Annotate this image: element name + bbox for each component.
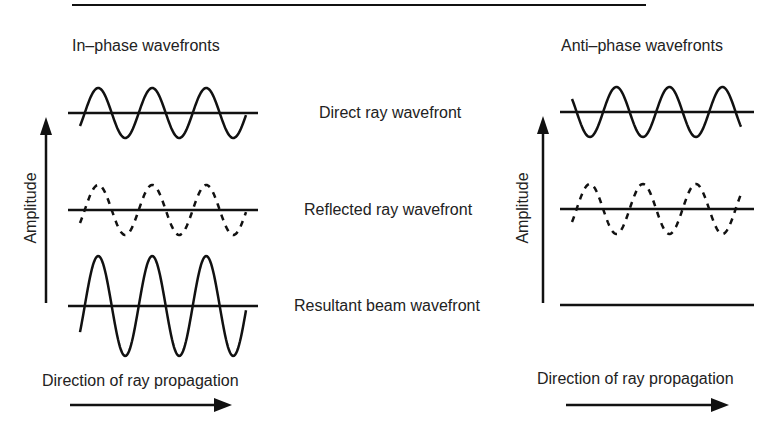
left-axis-label: Amplitude <box>22 168 40 248</box>
right-direction-arrow <box>566 398 729 412</box>
row-label-reflected: Reflected ray wavefront <box>304 201 472 219</box>
arrow-right-icon <box>214 398 232 412</box>
left-direction-label: Direction of ray propagation <box>42 372 239 390</box>
row-label-direct: Direct ray wavefront <box>319 104 461 122</box>
right-direction-label: Direction of ray propagation <box>537 370 734 388</box>
right-amplitude-axis <box>537 116 549 303</box>
left-amplitude-axis <box>40 117 52 303</box>
left-panel-title: In–phase wavefronts <box>72 37 220 55</box>
right-reflected-wave <box>560 184 754 234</box>
left-direction-arrow <box>70 398 232 412</box>
row-label-resultant: Resultant beam wavefront <box>294 297 480 315</box>
right-axis-label: Amplitude <box>514 168 532 248</box>
arrow-up-icon <box>537 116 549 134</box>
left-reflected-wave <box>68 185 258 235</box>
left-direct-wave <box>68 88 258 138</box>
arrow-up-icon <box>40 117 52 135</box>
right-panel-title: Anti–phase wavefronts <box>561 37 723 55</box>
arrow-right-icon <box>711 398 729 412</box>
right-direct-wave <box>560 87 754 137</box>
left-resultant-wave <box>68 256 258 356</box>
